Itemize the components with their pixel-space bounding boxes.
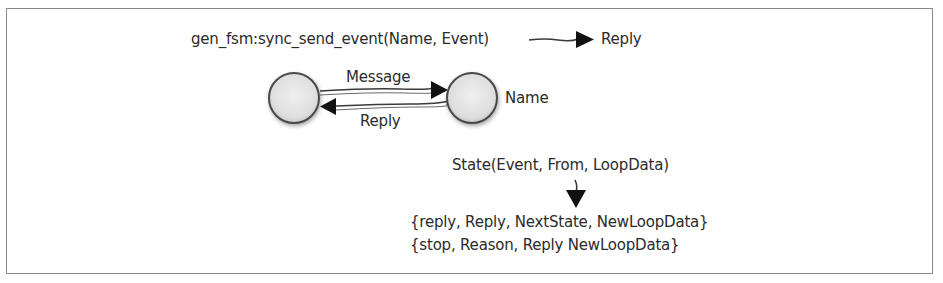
return-stop-tuple: {stop, Reason, Reply NewLoopData} — [410, 236, 679, 254]
return-arrow — [566, 180, 586, 208]
call-result-reply: Reply — [601, 30, 642, 48]
fsm-name-label: Name — [505, 89, 548, 107]
fsm-node — [447, 73, 497, 123]
state-callback: State(Event, From, LoopData) — [452, 156, 669, 174]
call-arrow — [529, 31, 594, 48]
caller-node — [269, 73, 319, 123]
message-label: Message — [346, 68, 410, 86]
sync-send-event-call: gen_fsm:sync_send_event(Name, Event) — [191, 30, 489, 48]
reply-label: Reply — [360, 112, 401, 130]
return-reply-tuple: {reply, Reply, NextState, NewLoopData} — [410, 213, 708, 231]
